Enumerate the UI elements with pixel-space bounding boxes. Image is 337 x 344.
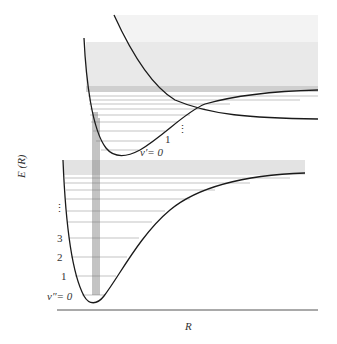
potential-energy-diagram: R E (R) v′= 0 1 ⋮ ⋮ 3 2 1 v″= 0 xyxy=(0,0,337,344)
lower-level-label-1: 1 xyxy=(61,270,67,282)
lower-level-label-0: v″= 0 xyxy=(47,290,73,302)
franck-condon-transitions xyxy=(93,112,99,295)
upper-level-label-0: v′= 0 xyxy=(140,146,163,158)
lower-level-label-3: 3 xyxy=(57,232,63,244)
upper-level-ellipsis: ⋮ xyxy=(177,123,188,135)
lower-level-label-2: 2 xyxy=(57,251,63,263)
lower-state-continuum-band xyxy=(64,160,305,175)
upper-state-vibrational-levels xyxy=(88,96,318,150)
x-axis-label: R xyxy=(184,320,192,332)
upper-state-continuum-band xyxy=(86,42,318,88)
y-axis-label: E (R) xyxy=(15,154,28,179)
lower-level-ellipsis: ⋮ xyxy=(54,202,65,214)
upper-level-label-1: 1 xyxy=(165,133,171,145)
